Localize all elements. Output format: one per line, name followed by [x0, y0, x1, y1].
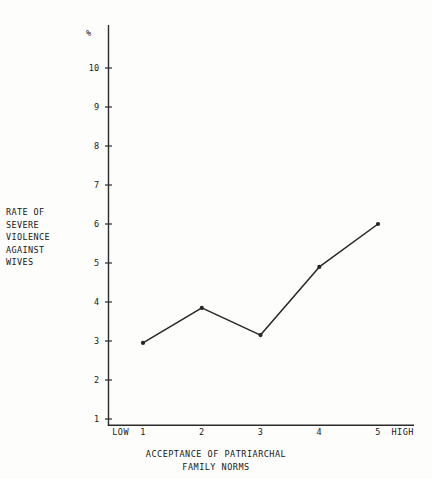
y-tick-label: 5 [82, 259, 100, 268]
x-tick-label: 5 [375, 428, 381, 437]
y-tick-label: 6 [82, 220, 100, 229]
x-axis-title-line-2: FAMILY NORMS [0, 461, 432, 474]
x-tick-label: 3 [258, 428, 264, 437]
x-tick-label: 4 [316, 428, 322, 437]
y-tick-label: 7 [82, 181, 100, 190]
y-tick-label: 2 [82, 376, 100, 385]
x-axis-title: ACCEPTANCE OF PATRIARCHAL FAMILY NORMS [0, 448, 432, 473]
chart-figure: RATE OF SEVERE VIOLENCE AGAINST WIVES % … [0, 0, 432, 479]
x-axis-title-line-1: ACCEPTANCE OF PATRIARCHAL [0, 448, 432, 461]
y-tick-label: 8 [82, 142, 100, 151]
data-point-marker [317, 265, 321, 269]
x-axis-anchor-label-low: LOW [112, 428, 129, 437]
x-tick-label: 1 [140, 428, 146, 437]
x-tick-label: 2 [199, 428, 205, 437]
x-axis-anchor-label-high: HIGH [391, 428, 413, 437]
data-markers [141, 222, 380, 345]
axis-lines [108, 25, 414, 426]
plot-area [0, 0, 432, 479]
y-tick-label: 4 [82, 298, 100, 307]
y-tick-label: 3 [82, 337, 100, 346]
y-tick-label: 1 [82, 415, 100, 424]
data-point-marker [258, 333, 262, 337]
data-point-marker [376, 222, 380, 226]
y-tick-label: 10 [82, 64, 100, 73]
y-tick-label: 9 [82, 103, 100, 112]
data-line [143, 224, 378, 343]
data-point-marker [141, 341, 145, 345]
data-point-marker [200, 306, 204, 310]
